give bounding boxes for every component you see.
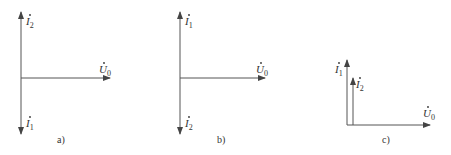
label-u0: U0	[423, 107, 435, 122]
dot-accent	[188, 14, 190, 16]
label-i2: I2	[184, 117, 193, 132]
label-i1: I1	[334, 63, 343, 78]
dot-accent	[260, 62, 262, 64]
dot-accent	[29, 14, 31, 16]
label-i2: I2	[25, 15, 34, 30]
label-i2: I2	[355, 78, 364, 93]
label-i1: I1	[25, 117, 34, 132]
label-i1: I1	[184, 15, 193, 30]
diagram-b: I1 U0 I2 b)	[180, 12, 268, 146]
caption-a: a)	[57, 134, 65, 146]
diagram-c: I1 I2 U0 c)	[334, 60, 435, 146]
dot-accent	[103, 62, 105, 64]
dot-accent	[29, 116, 31, 118]
dot-accent	[338, 62, 340, 64]
label-u0: U0	[99, 63, 111, 78]
dot-accent	[359, 77, 361, 79]
diagram-a: I2 U0 I1 a)	[21, 12, 111, 146]
phasor-diagrams: I2 U0 I1 a) I1 U0 I2 b) I1 I2 U0 c)	[0, 0, 451, 155]
caption-c: c)	[382, 134, 390, 146]
caption-b: b)	[217, 134, 225, 146]
label-u0: U0	[256, 63, 268, 78]
dot-accent	[427, 106, 429, 108]
dot-accent	[188, 116, 190, 118]
